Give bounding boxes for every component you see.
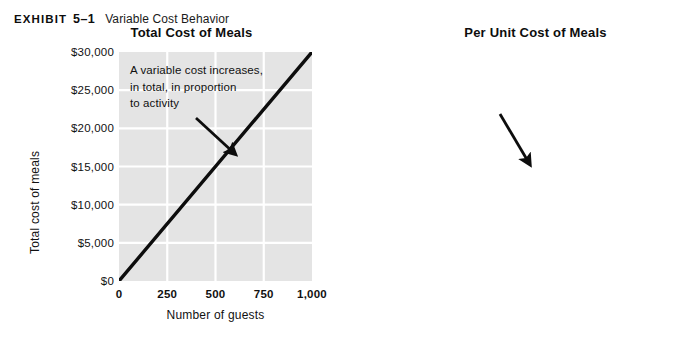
- x-axis-ticks-total: 0 250 500 750 1,000: [119, 288, 312, 304]
- y-tick-total-4: $10,000: [71, 199, 114, 211]
- annotation-total-line-1: in total, in proportion: [130, 79, 263, 96]
- x-axis-title-total: Number of guests: [119, 308, 312, 322]
- x-tick-total-0: 0: [116, 288, 123, 300]
- chart-title-total: Total Cost of Meals: [0, 25, 341, 40]
- y-tick-total-6: $0: [101, 275, 114, 287]
- annotation-total-line-2: to activity: [130, 95, 263, 112]
- annotation-total: A variable cost increases, in total, in …: [130, 62, 263, 112]
- chart-total-cost-of-meals: Total Cost of Meals $30,000 $25,000 $20: [0, 0, 341, 339]
- y-axis-title-total: Total cost of meals: [28, 151, 42, 254]
- y-axis-ticks-total: $30,000 $25,000 $20,000 $15,000 $10,000 …: [46, 52, 114, 281]
- chart-title-perunit: Per Unit Cost of Meals: [341, 25, 682, 40]
- x-tick-total-4: 1,000: [297, 288, 327, 300]
- y-tick-total-5: $5,000: [78, 237, 114, 249]
- y-tick-total-3: $15,000: [71, 161, 114, 173]
- y-tick-total-1: $25,000: [71, 84, 114, 96]
- y-tick-total-0: $30,000: [71, 46, 114, 58]
- x-tick-total-2: 500: [206, 288, 226, 300]
- chart-per-unit-cost-of-meals: Per Unit Cost of Meals $60 $50 $40 $30 $…: [341, 0, 682, 339]
- x-tick-total-3: 750: [254, 288, 274, 300]
- x-tick-total-1: 250: [157, 288, 177, 300]
- y-tick-total-2: $20,000: [71, 122, 114, 134]
- annotation-total-line-0: A variable cost increases,: [130, 62, 263, 79]
